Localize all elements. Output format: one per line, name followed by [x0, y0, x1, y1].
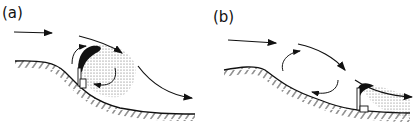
- diagram-a: [0, 0, 210, 134]
- panel-a: (a): [0, 0, 210, 134]
- stack: [357, 88, 360, 110]
- diagram-b: [210, 0, 420, 134]
- recirculation-arrow-lower: [312, 80, 338, 93]
- building: [80, 79, 86, 88]
- upper-flow-arrow: [298, 44, 345, 70]
- wind-arrow: [14, 32, 52, 33]
- recirculation-arrow-upper: [282, 51, 300, 71]
- wind-arrow: [228, 40, 276, 43]
- downstream-arrow: [138, 66, 192, 98]
- panel-b: (b): [210, 0, 420, 134]
- building: [360, 106, 368, 112]
